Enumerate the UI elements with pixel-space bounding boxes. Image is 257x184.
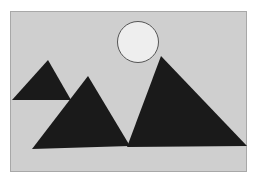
sun-icon xyxy=(118,22,159,63)
image-placeholder-icon xyxy=(0,0,257,184)
